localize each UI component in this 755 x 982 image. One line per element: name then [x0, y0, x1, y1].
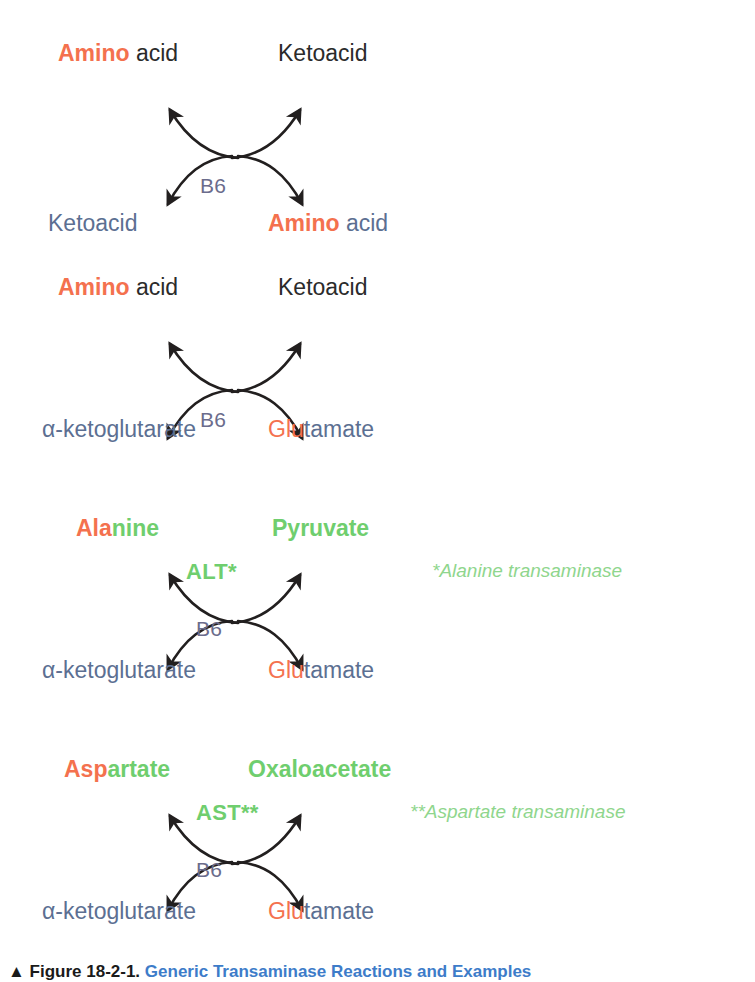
- reaction-arrow-1: [232, 110, 300, 158]
- reaction-panel-inner: AlaninePyruvateB6ALT*α-ketoglutarateGlut…: [0, 505, 460, 693]
- reaction-arrow-0: [170, 344, 238, 392]
- enzyme-label: AST**: [196, 800, 259, 826]
- label-bottom-right: Glutamate: [268, 412, 374, 446]
- label-top-left-seg-0: Amino: [58, 40, 130, 66]
- label-top-left: Alanine: [76, 511, 159, 545]
- label-bottom-left-seg-0: Ketoacid: [48, 210, 138, 236]
- reaction-arrow-0: [170, 110, 238, 158]
- substrate-row-top: Amino acidKetoacid: [0, 36, 460, 70]
- label-top-left: Aspartate: [64, 752, 170, 786]
- label-bottom-right-seg-0: Glu: [268, 898, 304, 924]
- label-top-left-seg-0: Amino: [58, 274, 130, 300]
- label-bottom-right-seg-1: acid: [340, 210, 389, 236]
- figure-caption-prefix: ▲: [8, 962, 25, 981]
- cofactor-label-b6: B6: [200, 174, 226, 198]
- reaction-arrow-1: [232, 344, 300, 392]
- label-top-right: Pyruvate: [272, 511, 369, 545]
- label-top-right: Ketoacid: [278, 36, 368, 70]
- figure-caption-text: Generic Transaminase Reactions and Examp…: [145, 962, 531, 981]
- label-bottom-left: α-ketoglutarate: [42, 412, 196, 446]
- substrate-row-top: AspartateOxaloacetate: [0, 752, 460, 786]
- label-top-left-seg-0: Ala: [76, 515, 112, 541]
- product-row-bottom: α-ketoglutarateGlutamate: [0, 894, 460, 928]
- label-top-right: Ketoacid: [278, 270, 368, 304]
- label-top-left: Amino acid: [58, 36, 178, 70]
- label-top-left-seg-1: acid: [130, 274, 179, 300]
- label-bottom-left-seg-0: α-ketoglutarate: [42, 657, 196, 683]
- label-bottom-left: α-ketoglutarate: [42, 653, 196, 687]
- label-bottom-right: Glutamate: [268, 894, 374, 928]
- label-top-left-seg-1: acid: [130, 40, 179, 66]
- enzyme-footnote: *Alanine transaminase: [432, 560, 622, 582]
- reaction-panel-alt-reaction: AlaninePyruvateB6ALT*α-ketoglutarateGlut…: [0, 505, 755, 693]
- label-top-right: Oxaloacetate: [248, 752, 391, 786]
- label-bottom-right-seg-0: Glu: [268, 657, 304, 683]
- reaction-panel-inner: Amino acidKetoacidB6α-ketoglutarateGluta…: [0, 262, 460, 452]
- label-bottom-right-seg-1: tamate: [304, 416, 374, 442]
- product-row-bottom: α-ketoglutarateGlutamate: [0, 653, 460, 687]
- figure-caption: ▲ Figure 18-2-1. Generic Transaminase Re…: [8, 962, 753, 982]
- reaction-panel-generic-transamination: Amino acidKetoacidB6KetoacidAmino acid: [0, 28, 755, 246]
- label-bottom-right-seg-1: tamate: [304, 898, 374, 924]
- product-row-bottom: KetoacidAmino acid: [0, 206, 460, 240]
- label-top-left: Amino acid: [58, 270, 178, 304]
- crossing-arrows: [110, 96, 360, 218]
- cofactor-label-b6: B6: [196, 617, 222, 641]
- label-bottom-left-seg-0: α-ketoglutarate: [42, 898, 196, 924]
- cofactor-label-b6: B6: [196, 858, 222, 882]
- label-top-right-seg-0: Oxaloacetate: [248, 756, 391, 782]
- label-bottom-right: Amino acid: [268, 206, 388, 240]
- reaction-arrow-3: [238, 156, 302, 204]
- arrow-group: [110, 96, 360, 218]
- reaction-panel-glutamate-transamination: Amino acidKetoacidB6α-ketoglutarateGluta…: [0, 262, 755, 452]
- label-top-right-seg-0: Ketoacid: [278, 274, 368, 300]
- substrate-row-top: AlaninePyruvate: [0, 511, 460, 545]
- product-row-bottom: α-ketoglutarateGlutamate: [0, 412, 460, 446]
- label-bottom-right-seg-1: tamate: [304, 657, 374, 683]
- reaction-panel-inner: AspartateOxaloacetateB6AST**α-ketoglutar…: [0, 746, 460, 934]
- label-bottom-left-seg-0: α-ketoglutarate: [42, 416, 196, 442]
- substrate-row-top: Amino acidKetoacid: [0, 270, 460, 304]
- figure-number: Figure 18-2-1.: [30, 962, 141, 981]
- label-top-left-seg-0: Asp: [64, 756, 107, 782]
- reaction-panel-inner: Amino acidKetoacidB6KetoacidAmino acid: [0, 28, 460, 246]
- reaction-arrow-1: [232, 575, 300, 623]
- label-top-right-seg-0: Pyruvate: [272, 515, 369, 541]
- label-bottom-right: Glutamate: [268, 653, 374, 687]
- label-bottom-right-seg-0: Glu: [268, 416, 304, 442]
- label-top-left-seg-1: nine: [112, 515, 159, 541]
- label-bottom-left: Ketoacid: [48, 206, 138, 240]
- reaction-panel-ast-reaction: AspartateOxaloacetateB6AST**α-ketoglutar…: [0, 746, 755, 934]
- label-bottom-left: α-ketoglutarate: [42, 894, 196, 928]
- label-top-left-seg-1: artate: [107, 756, 170, 782]
- enzyme-label: ALT*: [186, 559, 237, 585]
- label-bottom-right-seg-0: Amino: [268, 210, 340, 236]
- label-top-right-seg-0: Ketoacid: [278, 40, 368, 66]
- enzyme-footnote: **Aspartate transaminase: [410, 801, 625, 823]
